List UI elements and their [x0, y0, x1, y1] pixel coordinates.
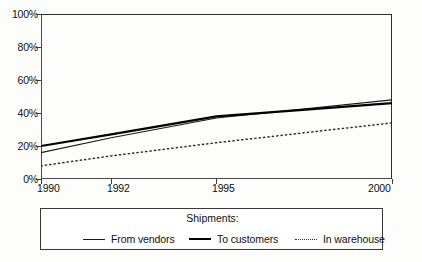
series-line-to-customers	[41, 103, 392, 146]
legend-label-from-vendors: From vendors	[111, 234, 175, 245]
thin-line-swatch-icon	[83, 235, 105, 243]
series-line-in-warehouse	[41, 123, 392, 166]
legend-item-to-customers[interactable]: To customers	[189, 232, 278, 246]
legend-item-from-vendors[interactable]: From vendors	[83, 232, 175, 246]
y-tick-label-20: 20%	[2, 141, 38, 152]
dotted-line-swatch-icon	[295, 235, 317, 243]
y-tick-label-100: 100%	[2, 9, 38, 20]
y-tick-label-40: 40%	[2, 108, 38, 119]
legend-items: From vendors To customers In warehouse	[41, 232, 384, 248]
legend-label-to-customers: To customers	[217, 234, 278, 245]
thick-line-swatch-icon	[189, 235, 211, 243]
x-tick-mark-2000	[392, 179, 393, 184]
x-tick-label-1995: 1995	[212, 183, 235, 194]
chart-legend: Shipments: From vendors To customers In …	[40, 208, 383, 250]
x-tick-label-1990: 1990	[37, 183, 60, 194]
y-tick-label-0: 0%	[2, 174, 38, 185]
x-tick-label-1992: 1992	[107, 183, 130, 194]
y-tick-label-60: 60%	[2, 75, 38, 86]
y-tick-label-80: 80%	[2, 42, 38, 53]
y-axis: 100% 80% 60% 40% 20% 0%	[0, 0, 38, 262]
chart-figure: 100% 80% 60% 40% 20% 0% 1990 1992 1995 2…	[0, 0, 422, 262]
x-tick-label-2000: 2000	[368, 183, 391, 194]
legend-label-in-warehouse: In warehouse	[323, 234, 385, 245]
legend-item-in-warehouse[interactable]: In warehouse	[295, 232, 385, 246]
legend-title: Shipments:	[41, 213, 384, 224]
chart-plot-lines	[41, 14, 392, 179]
